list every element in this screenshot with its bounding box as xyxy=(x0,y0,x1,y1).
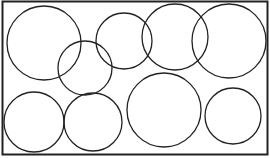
circle-top-left xyxy=(7,6,81,80)
circle-bottom-center xyxy=(127,73,201,147)
circle-middle-overlap xyxy=(58,41,112,95)
circle-top-right xyxy=(192,4,266,78)
circle-top-center xyxy=(96,13,152,69)
circles-diagram xyxy=(0,0,270,158)
circle-bottom-center-left xyxy=(64,93,122,151)
circle-bottom-left xyxy=(4,92,64,152)
circle-bottom-right xyxy=(205,88,261,144)
circle-group xyxy=(4,4,266,152)
